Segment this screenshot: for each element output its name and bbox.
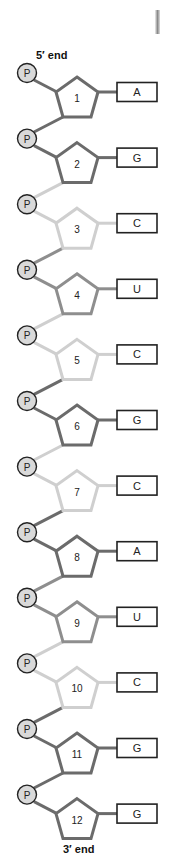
nucleotide-number: 3 xyxy=(74,224,80,235)
nucleotide-unit: A1P xyxy=(18,64,158,133)
phosphate-label: P xyxy=(24,527,31,538)
nucleotide-number: 5 xyxy=(74,355,80,366)
phosphate-label: P xyxy=(24,790,31,801)
three-prime-label: 3′ end xyxy=(63,843,94,855)
phosphate-label: P xyxy=(24,724,31,735)
phosphate-label: P xyxy=(24,199,31,210)
sugar-phosphate-bond xyxy=(34,576,63,591)
base-letter: C xyxy=(133,217,141,229)
phosphate-sugar-bond xyxy=(34,670,57,682)
sugar-phosphate-bond xyxy=(34,642,63,657)
sugar-phosphate-bond xyxy=(34,773,63,788)
nucleotide-unit: C3P xyxy=(18,195,158,264)
base-letter: A xyxy=(133,545,141,557)
nucleotide-number: 4 xyxy=(74,290,80,301)
nucleotide-number: 11 xyxy=(72,749,83,760)
phosphate-label: P xyxy=(24,134,31,145)
nucleotide-unit: G2P xyxy=(18,129,158,198)
base-letter: U xyxy=(133,283,141,295)
base-letter: U xyxy=(133,611,141,623)
base-letter: G xyxy=(133,414,142,426)
phosphate-sugar-bond xyxy=(34,474,57,486)
nucleotide-unit: C7P xyxy=(18,457,158,525)
sugar-phosphate-bond xyxy=(34,117,63,132)
base-letter: G xyxy=(133,808,142,820)
sugar-phosphate-bond xyxy=(34,379,63,394)
sugar-phosphate-bond xyxy=(34,707,63,722)
rna-strand-diagram: 5′ end A1PG2PC3PU4PC5PG6PC7PA8PU9PC10PG1… xyxy=(0,0,170,864)
sugar-phosphate-bond xyxy=(34,314,63,329)
nucleotide-unit: U4P xyxy=(18,260,158,329)
base-letter: G xyxy=(133,152,142,164)
base-letter: A xyxy=(133,86,141,98)
nucleotide-unit: G12P xyxy=(18,785,158,839)
phosphate-label: P xyxy=(24,462,31,473)
nucleotide-unit: G11P xyxy=(18,720,158,789)
nucleotide-number: 10 xyxy=(71,683,83,694)
sugar-phosphate-bond xyxy=(34,248,63,263)
phosphate-label: P xyxy=(24,658,31,669)
nucleotide-number: 6 xyxy=(74,421,80,432)
phosphate-sugar-bond xyxy=(34,211,57,223)
phosphate-sugar-bond xyxy=(34,277,57,289)
nucleotide-number: 1 xyxy=(74,93,80,104)
phosphate-sugar-bond xyxy=(34,539,57,551)
sugar-phosphate-bond xyxy=(34,511,63,526)
five-prime-label: 5′ end xyxy=(36,49,67,61)
nucleotide-number: 8 xyxy=(74,552,80,563)
nucleotide-number: 7 xyxy=(74,487,80,498)
phosphate-label: P xyxy=(24,330,31,341)
nucleotide-unit: A8P xyxy=(18,523,158,592)
phosphate-sugar-bond xyxy=(34,80,57,92)
phosphate-sugar-bond xyxy=(34,146,57,158)
phosphate-label: P xyxy=(24,593,31,604)
nucleotide-number: 9 xyxy=(74,618,80,629)
phosphate-sugar-bond xyxy=(34,342,57,354)
base-letter: C xyxy=(133,676,141,688)
phosphate-sugar-bond xyxy=(34,736,57,748)
base-letter: C xyxy=(133,348,141,360)
phosphate-sugar-bond xyxy=(34,802,57,814)
phosphate-label: P xyxy=(24,396,31,407)
phosphate-label: P xyxy=(24,265,31,276)
sugar-phosphate-bond xyxy=(34,445,63,460)
nucleotide-number: 12 xyxy=(71,815,83,826)
phosphate-sugar-bond xyxy=(34,408,57,420)
base-letter: C xyxy=(133,480,141,492)
phosphate-sugar-bond xyxy=(34,605,57,617)
nucleotide-number: 2 xyxy=(74,159,80,170)
nucleotide-unit: C10P xyxy=(18,654,158,723)
nucleotide-unit: C5P xyxy=(18,326,158,395)
nucleotide-unit: G6P xyxy=(18,392,158,461)
nucleotide-unit: U9P xyxy=(18,588,158,657)
sugar-phosphate-bond xyxy=(34,183,63,198)
phosphate-label: P xyxy=(24,68,31,79)
base-letter: G xyxy=(133,742,142,754)
